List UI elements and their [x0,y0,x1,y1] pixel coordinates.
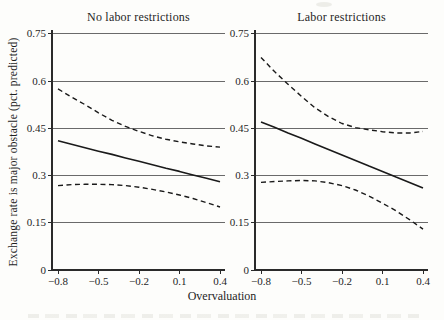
y-tick-label: 0.3 [32,169,46,181]
x-tick-label: −0.5 [89,275,109,287]
x-tick-label: 0.1 [173,275,187,287]
confidence-band-line [261,181,423,230]
y-tick-label: 0 [244,264,250,276]
confidence-band-line [261,57,423,133]
confidence-band-line [58,89,220,147]
y-tick-label: 0.6 [32,75,46,87]
confidence-band-line [58,184,220,207]
x-tick-label: 0.4 [213,275,227,287]
x-tick-label: −0.2 [332,275,352,287]
cropped-caption-fragment [28,314,424,318]
x-tick-label: 0.1 [376,275,390,287]
x-axis-label: Overvaluation [0,289,444,304]
x-tick-label: −0.5 [292,275,312,287]
x-tick-label: 0.4 [416,275,430,287]
y-tick-label: 0.45 [27,122,47,134]
x-tick-label: −0.8 [251,275,271,287]
y-tick-label: 0.75 [27,27,47,39]
y-tick-label: 0.6 [235,75,249,87]
y-tick-label: 0.45 [230,122,250,134]
y-tick-label: 0 [41,264,47,276]
x-tick-label: −0.2 [129,275,149,287]
figure-container: No labor restrictions Labor restrictions… [0,0,444,320]
x-tick-label: −0.8 [48,275,68,287]
estimate-line [261,122,423,188]
y-tick-label: 0.15 [27,216,47,228]
y-tick-label: 0.15 [230,216,250,228]
plot-canvas: 00.150.30.450.60.75−0.8−0.5−0.20.10.400.… [0,0,444,320]
y-tick-label: 0.3 [235,169,249,181]
y-tick-label: 0.75 [230,27,250,39]
